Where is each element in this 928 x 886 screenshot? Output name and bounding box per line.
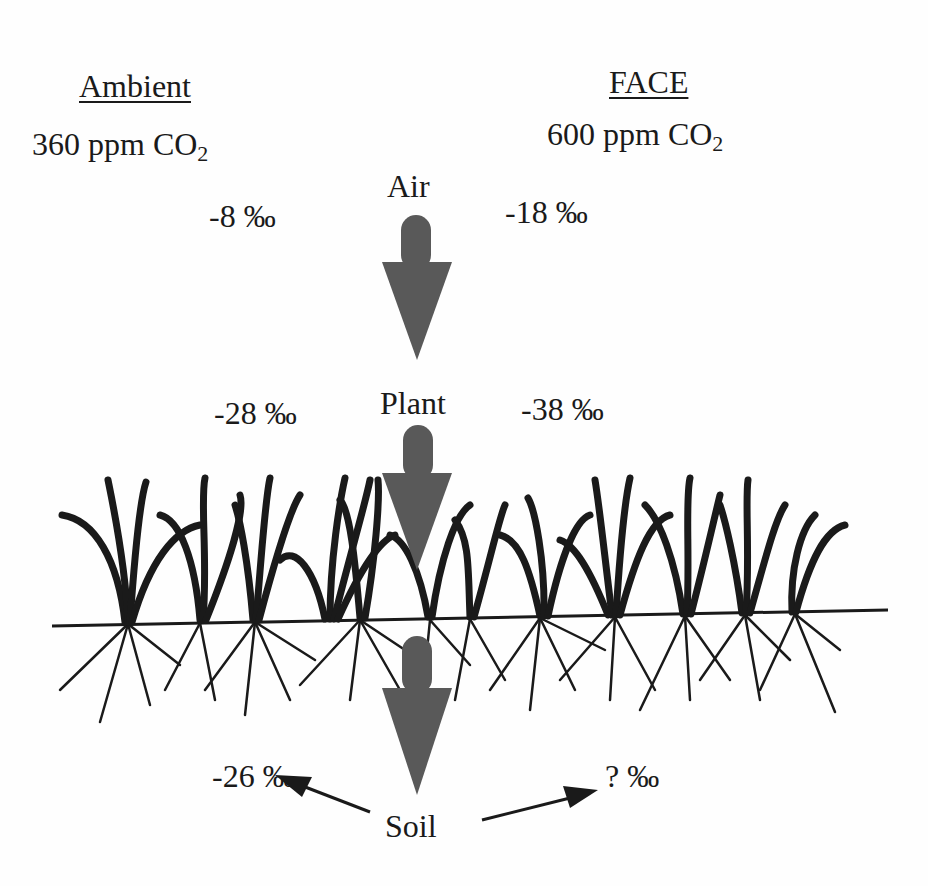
- soil-label: Soil: [385, 810, 437, 842]
- face-concentration-text: 600 ppm CO: [547, 116, 712, 152]
- arrow-air-to-plant: [382, 215, 452, 360]
- face-title: FACE: [609, 66, 688, 98]
- air-label: Air: [387, 170, 430, 202]
- arrow-plant-to-soil: [382, 425, 452, 570]
- arrow-soil-to-face: [482, 786, 598, 820]
- plant-face-value: -38 ‰: [521, 393, 604, 425]
- ambient-concentration-subscript: 2: [197, 141, 208, 166]
- air-ambient-value: -8 ‰: [209, 200, 276, 232]
- ambient-concentration: 360 ppm CO2: [32, 128, 208, 160]
- roots: [60, 614, 840, 722]
- soil-face-value: ? ‰: [605, 760, 659, 792]
- face-concentration-subscript: 2: [712, 131, 723, 156]
- soil-ambient-value: -26 ‰: [212, 760, 295, 792]
- arrow-into-soil: [382, 636, 452, 795]
- air-face-value: -18 ‰: [505, 196, 588, 228]
- ambient-title: Ambient: [79, 70, 191, 102]
- ambient-concentration-text: 360 ppm CO: [32, 126, 197, 162]
- grass: [62, 478, 845, 622]
- plant-label: Plant: [380, 387, 446, 419]
- face-concentration: 600 ppm CO2: [547, 118, 723, 150]
- plant-ambient-value: -28 ‰: [214, 397, 297, 429]
